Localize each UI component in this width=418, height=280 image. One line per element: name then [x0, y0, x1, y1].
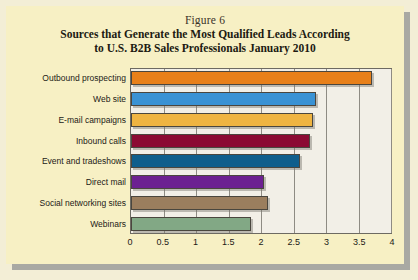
bar-track [131, 92, 391, 106]
bar [131, 92, 316, 106]
bar-row: Webinars [18, 217, 392, 231]
x-tick-label: 4 [389, 237, 394, 247]
x-tick-label: 2.5 [287, 237, 300, 247]
bar-track [131, 154, 391, 168]
bar [131, 154, 300, 168]
x-axis: 00.511.522.533.54 [130, 235, 392, 253]
bar-row: Outbound prospecting [18, 71, 392, 85]
bar-track [131, 134, 391, 148]
chart: Outbound prospectingWeb siteE-mail campa… [18, 68, 392, 254]
bar-row: Event and tradeshows [18, 154, 392, 168]
figure-number: Figure 6 [6, 14, 404, 26]
x-tick-label: 1.5 [222, 237, 235, 247]
chart-title-line-1: Sources that Generate the Most Qualified… [20, 28, 390, 42]
chart-title-line-2: to U.S. B2B Sales Professionals January … [20, 42, 390, 56]
category-label: Outbound prospecting [18, 71, 126, 85]
x-tick-label: 2 [258, 237, 263, 247]
bar [131, 196, 268, 210]
bar-track [131, 217, 391, 231]
bar-row: Direct mail [18, 175, 392, 189]
x-tick-label: 1 [193, 237, 198, 247]
category-label: Event and tradeshows [18, 154, 126, 168]
category-label: Webinars [18, 217, 126, 231]
category-label: Inbound calls [18, 134, 126, 148]
bar-row: Inbound calls [18, 134, 392, 148]
figure-page: Figure 6 Sources that Generate the Most … [6, 6, 404, 264]
bar-rows: Outbound prospectingWeb siteE-mail campa… [18, 68, 392, 234]
bar [131, 175, 264, 189]
category-label: Direct mail [18, 175, 126, 189]
chart-title: Sources that Generate the Most Qualified… [6, 28, 404, 55]
category-label: Social networking sites [18, 196, 126, 210]
bar-track [131, 71, 391, 85]
category-label: E-mail campaigns [18, 113, 126, 127]
x-tick-label: 0.5 [156, 237, 169, 247]
x-tick-label: 3 [324, 237, 329, 247]
x-tick-label: 3.5 [353, 237, 366, 247]
bar [131, 113, 313, 127]
bar [131, 134, 310, 148]
bar [131, 217, 251, 231]
bar [131, 71, 372, 85]
x-tick-label: 0 [127, 237, 132, 247]
bar-track [131, 113, 391, 127]
bar-row: Web site [18, 92, 392, 106]
bar-track [131, 175, 391, 189]
category-label: Web site [18, 92, 126, 106]
bar-row: E-mail campaigns [18, 113, 392, 127]
bar-row: Social networking sites [18, 196, 392, 210]
bar-track [131, 196, 391, 210]
